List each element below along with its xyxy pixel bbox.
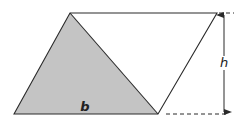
base-label: b	[80, 99, 89, 114]
parallelogram-diagram: h b	[0, 0, 245, 122]
height-label: h	[220, 55, 228, 70]
